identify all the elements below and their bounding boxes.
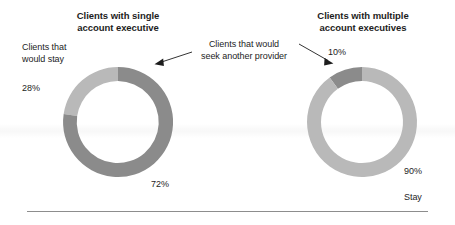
donut-charts-svg bbox=[0, 0, 455, 225]
shared-leave-callout-line2: seek another provider bbox=[178, 50, 310, 62]
bottom-divider bbox=[27, 211, 428, 212]
shared-leave-callout-line1: Clients that would bbox=[178, 38, 310, 50]
right-donut-segment-stay bbox=[307, 67, 417, 177]
right-donut bbox=[307, 67, 417, 177]
shared-leave-callout-label: Clients that would seek another provider bbox=[178, 38, 310, 63]
left-donut bbox=[63, 67, 173, 177]
right-stay-percent-label: 90% bbox=[404, 165, 444, 177]
left-stay-callout-label: Clients that would stay bbox=[22, 41, 108, 65]
left-leave-percent-label: 72% bbox=[151, 178, 195, 190]
left-stay-callout-line2: would stay bbox=[22, 53, 108, 65]
left-stay-callout-line1: Clients that bbox=[22, 41, 108, 53]
right-leave-percent-label: 10% bbox=[328, 46, 364, 58]
figure-canvas: Clients with single account executive Cl… bbox=[0, 0, 455, 225]
right-stay-label: Stay bbox=[404, 191, 444, 203]
left-stay-percent-label: 28% bbox=[22, 82, 70, 94]
left-donut-segment-stay bbox=[64, 67, 118, 116]
